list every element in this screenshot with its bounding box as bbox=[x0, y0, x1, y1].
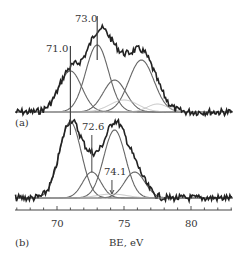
annotation-72-6: 72.6 bbox=[82, 122, 104, 132]
annotation-73-0: 73.0 bbox=[75, 14, 97, 24]
panel-label-a: (a) bbox=[15, 118, 29, 128]
x-tick-label-75: 75 bbox=[118, 219, 131, 229]
panel-label-b: (b) bbox=[15, 238, 29, 248]
x-tick-label-70: 70 bbox=[51, 219, 64, 229]
annotation-71-0: 71.0 bbox=[46, 44, 68, 54]
xps-figure: 73.0 71.0 (a) 72.6 74.1 70 75 80 (b) BE,… bbox=[0, 0, 244, 261]
x-tick-label-80: 80 bbox=[185, 219, 198, 229]
annotation-74-1: 74.1 bbox=[104, 167, 126, 177]
experimental-spectrum bbox=[16, 25, 233, 115]
fit-component bbox=[16, 130, 233, 198]
x-axis-label: BE, eV bbox=[109, 238, 143, 248]
